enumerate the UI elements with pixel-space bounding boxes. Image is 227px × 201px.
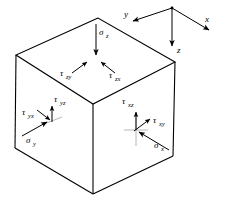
sigma-x-subscript: x bbox=[160, 145, 164, 152]
tau-yz-symbol: τ bbox=[54, 94, 58, 104]
z-axis-label: z bbox=[176, 45, 181, 55]
sigma-z-symbol: σ bbox=[99, 27, 104, 37]
left-face-stress-arrows bbox=[22, 106, 62, 136]
diagram-canvas: x y z σ z τ zy τ zx σ y bbox=[0, 0, 227, 201]
cube-bottom-right-edge bbox=[93, 156, 173, 194]
sigma-x-label: σ x bbox=[154, 140, 164, 152]
tau-xz-subscript: xz bbox=[127, 101, 134, 108]
tau-yz-label: τ yz bbox=[54, 94, 66, 106]
tau-zx-arrow bbox=[101, 62, 115, 73]
tau-zy-symbol: τ bbox=[60, 68, 64, 78]
tau-yz-subscript: yz bbox=[59, 99, 66, 106]
sigma-y-subscript: y bbox=[32, 140, 36, 147]
sigma-y-label: σ y bbox=[26, 135, 36, 147]
cube-right-vertical-edge bbox=[173, 62, 175, 156]
y-axis-line bbox=[133, 8, 172, 21]
tau-xy-symbol: τ bbox=[153, 115, 157, 125]
tau-xy-label: τ xy bbox=[153, 115, 165, 127]
tau-zy-arrow bbox=[72, 62, 87, 73]
tau-zy-label: τ zy bbox=[60, 68, 72, 80]
stress-element-diagram: x y z σ z τ zy τ zx σ y bbox=[0, 0, 227, 201]
tau-xy-subscript: xy bbox=[158, 120, 165, 127]
coordinate-axes bbox=[133, 7, 209, 46]
x-axis-line bbox=[172, 8, 209, 30]
top-face-stress-arrows bbox=[72, 24, 115, 73]
axes-origin-dot bbox=[171, 7, 174, 10]
sigma-z-label: σ z bbox=[99, 27, 109, 39]
cube-wireframe bbox=[15, 18, 175, 194]
sigma-z-subscript: z bbox=[105, 32, 109, 39]
y-axis-label: y bbox=[123, 9, 128, 19]
tau-xz-symbol: τ bbox=[122, 96, 126, 106]
tau-yx-subscript: yx bbox=[27, 112, 34, 119]
tau-xz-label: τ xz bbox=[122, 96, 134, 108]
cube-left-vertical-edge bbox=[15, 55, 16, 148]
cube-bottom-left-edge bbox=[15, 148, 93, 194]
tau-zy-subscript: zy bbox=[65, 73, 72, 80]
sigma-x-symbol: σ bbox=[154, 140, 159, 150]
tau-yx-label: τ yx bbox=[22, 107, 34, 119]
tau-yx-symbol: τ bbox=[22, 107, 26, 117]
tau-zx-subscript: zx bbox=[114, 75, 121, 82]
tau-yx-arrow bbox=[37, 110, 50, 120]
sigma-y-symbol: σ bbox=[26, 135, 31, 145]
tau-zx-label: τ zx bbox=[109, 70, 121, 82]
sigma-y-arrow bbox=[22, 122, 47, 136]
x-axis-label: x bbox=[204, 14, 209, 24]
